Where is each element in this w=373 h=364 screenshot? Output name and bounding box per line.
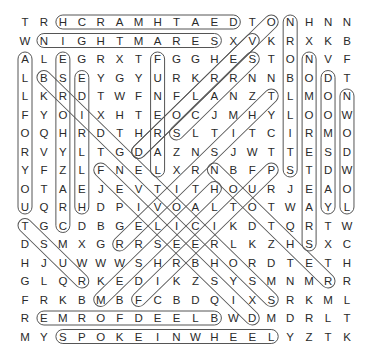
grid-cell[interactable]: R [73, 272, 91, 290]
grid-cell[interactable]: A [16, 50, 34, 68]
grid-cell[interactable]: R [338, 272, 356, 290]
grid-cell[interactable]: L [149, 161, 167, 179]
grid-cell[interactable]: E [130, 328, 148, 346]
grid-cell[interactable]: R [35, 13, 53, 31]
grid-cell[interactable]: Y [224, 272, 242, 290]
grid-cell[interactable]: C [149, 291, 167, 309]
grid-cell[interactable]: M [319, 124, 337, 142]
grid-cell[interactable]: C [73, 13, 91, 31]
grid-cell[interactable]: W [338, 161, 356, 179]
grid-cell[interactable]: F [16, 106, 34, 124]
grid-cell[interactable]: O [168, 106, 186, 124]
grid-cell[interactable]: K [92, 272, 110, 290]
grid-cell[interactable]: H [92, 32, 110, 50]
grid-cell[interactable]: R [168, 32, 186, 50]
grid-cell[interactable]: L [262, 328, 280, 346]
grid-cell[interactable]: R [281, 32, 299, 50]
grid-cell[interactable]: V [149, 198, 167, 216]
grid-cell[interactable]: M [300, 87, 318, 105]
grid-cell[interactable]: R [186, 161, 204, 179]
grid-cell[interactable]: N [338, 87, 356, 105]
grid-cell[interactable]: E [224, 50, 242, 68]
grid-cell[interactable]: N [205, 161, 223, 179]
grid-cell[interactable]: O [54, 106, 72, 124]
grid-cell[interactable]: M [262, 309, 280, 327]
grid-cell[interactable]: E [73, 180, 91, 198]
grid-cell[interactable]: I [149, 328, 167, 346]
grid-cell[interactable]: E [243, 328, 261, 346]
grid-cell[interactable]: T [281, 254, 299, 272]
grid-cell[interactable]: G [16, 272, 34, 290]
grid-cell[interactable]: T [35, 180, 53, 198]
grid-cell[interactable]: S [243, 50, 261, 68]
grid-cell[interactable]: D [130, 143, 148, 161]
grid-cell[interactable]: T [262, 87, 280, 105]
grid-cell[interactable]: Q [35, 198, 53, 216]
grid-cell[interactable]: H [281, 235, 299, 253]
grid-cell[interactable]: R [73, 124, 91, 142]
grid-cell[interactable]: Q [35, 124, 53, 142]
grid-cell[interactable]: S [300, 235, 318, 253]
grid-cell[interactable]: Y [92, 69, 110, 87]
grid-cell[interactable]: Z [262, 235, 280, 253]
grid-cell[interactable]: L [224, 235, 242, 253]
grid-cell[interactable]: P [73, 328, 91, 346]
grid-cell[interactable]: K [186, 69, 204, 87]
grid-cell[interactable]: E [224, 328, 242, 346]
grid-cell[interactable]: E [186, 32, 204, 50]
grid-cell[interactable]: D [262, 254, 280, 272]
grid-cell[interactable]: M [130, 32, 148, 50]
grid-cell[interactable]: S [130, 254, 148, 272]
grid-cell[interactable]: G [35, 217, 53, 235]
grid-cell[interactable]: N [224, 87, 242, 105]
grid-cell[interactable]: S [281, 161, 299, 179]
grid-cell[interactable]: D [92, 124, 110, 142]
grid-cell[interactable]: F [92, 161, 110, 179]
grid-cell[interactable]: T [319, 254, 337, 272]
grid-cell[interactable]: A [149, 32, 167, 50]
grid-cell[interactable]: Q [205, 291, 223, 309]
grid-cell[interactable]: L [281, 87, 299, 105]
grid-cell[interactable]: Y [130, 69, 148, 87]
grid-cell[interactable]: Z [243, 87, 261, 105]
grid-cell[interactable]: N [149, 87, 167, 105]
grid-cell[interactable]: C [186, 106, 204, 124]
grid-cell[interactable]: Y [281, 328, 299, 346]
grid-cell[interactable]: T [281, 143, 299, 161]
grid-cell[interactable]: T [319, 217, 337, 235]
grid-cell[interactable]: G [111, 217, 129, 235]
grid-cell[interactable]: J [224, 143, 242, 161]
grid-cell[interactable]: H [54, 124, 72, 142]
grid-cell[interactable]: G [111, 69, 129, 87]
grid-cell[interactable]: G [73, 32, 91, 50]
grid-cell[interactable]: E [149, 106, 167, 124]
grid-cell[interactable]: N [168, 328, 186, 346]
grid-cell[interactable]: T [243, 124, 261, 142]
grid-cell[interactable]: T [262, 143, 280, 161]
grid-cell[interactable]: I [168, 217, 186, 235]
grid-cell[interactable]: J [35, 254, 53, 272]
grid-cell[interactable]: O [319, 106, 337, 124]
grid-cell[interactable]: K [35, 87, 53, 105]
grid-cell[interactable]: B [111, 291, 129, 309]
grid-cell[interactable]: H [300, 13, 318, 31]
grid-cell[interactable]: K [300, 291, 318, 309]
grid-cell[interactable]: K [262, 32, 280, 50]
grid-cell[interactable]: D [319, 161, 337, 179]
grid-cell[interactable]: V [243, 32, 261, 50]
grid-cell[interactable]: A [319, 180, 337, 198]
grid-cell[interactable]: K [224, 217, 242, 235]
grid-cell[interactable]: E [300, 254, 318, 272]
grid-cell[interactable]: S [149, 235, 167, 253]
grid-cell[interactable]: O [92, 309, 110, 327]
grid-cell[interactable]: M [300, 272, 318, 290]
grid-cell[interactable]: P [262, 161, 280, 179]
grid-cell[interactable]: H [205, 180, 223, 198]
grid-cell[interactable]: T [205, 124, 223, 142]
grid-cell[interactable]: Q [281, 217, 299, 235]
grid-cell[interactable]: G [186, 50, 204, 68]
grid-cell[interactable]: R [92, 50, 110, 68]
grid-cell[interactable]: K [54, 291, 72, 309]
grid-cell[interactable]: J [281, 180, 299, 198]
grid-cell[interactable]: T [262, 198, 280, 216]
